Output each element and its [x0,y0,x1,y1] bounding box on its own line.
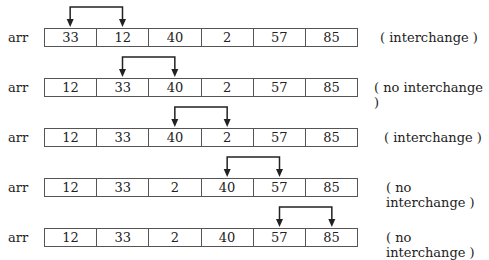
array-label: arr [8,130,28,145]
compare-arrow-icon [0,56,489,80]
array-cell: 57 [253,79,305,96]
array-cell: 12 [96,29,148,46]
array-cells: 12 33 40 2 57 85 [44,128,358,147]
array-row-5: arr 12 33 2 40 57 85 ( no interchange ) [0,206,489,256]
array-cell: 57 [253,29,305,46]
array-row-4: arr 12 33 2 40 57 85 ( no interchange ) [0,156,489,206]
array-cell: 2 [148,179,200,196]
array-row-2: arr 12 33 40 2 57 85 ( no interchange ) [0,56,489,106]
array-cell: 85 [305,229,357,246]
array-cell: 57 [253,229,305,246]
compare-arrow-icon [0,206,489,230]
array-cell: 33 [96,79,148,96]
array-cell: 40 [148,79,200,96]
array-cell: 85 [305,129,357,146]
array-cell: 40 [201,229,253,246]
array-cell: 2 [201,29,253,46]
array-cell: 57 [253,179,305,196]
array-cell: 85 [305,29,357,46]
array-cell: 12 [45,229,96,246]
array-cell: 33 [96,129,148,146]
compare-arrow-icon [0,6,489,30]
array-label: arr [8,30,28,45]
array-cells: 12 33 2 40 57 85 [44,178,358,197]
array-cell: 33 [96,229,148,246]
compare-arrow-icon [0,106,489,130]
array-cell: 2 [201,129,253,146]
array-cell: 85 [305,179,357,196]
array-row-3: arr 12 33 40 2 57 85 ( interchange ) [0,106,489,156]
array-cell: 85 [305,79,357,96]
array-cell: 12 [45,79,96,96]
array-label: arr [8,230,28,245]
array-row-1: arr 33 12 40 2 57 85 ( interchange ) [0,6,489,56]
array-cells: 12 33 40 2 57 85 [44,78,358,97]
interchange-note: ( no interchange ) [386,230,489,260]
interchange-note: ( interchange ) [384,130,482,145]
array-label: arr [8,180,28,195]
array-cell: 40 [201,179,253,196]
array-cell: 40 [148,29,200,46]
array-cell: 33 [96,179,148,196]
array-cell: 57 [253,129,305,146]
array-cell: 2 [201,79,253,96]
array-cells: 12 33 2 40 57 85 [44,228,358,247]
array-cell: 12 [45,129,96,146]
array-cell: 12 [45,179,96,196]
compare-arrow-icon [0,156,489,180]
interchange-note: ( interchange ) [380,30,478,45]
array-cell: 40 [148,129,200,146]
array-cells: 33 12 40 2 57 85 [44,28,358,47]
array-cell: 2 [148,229,200,246]
array-cell: 33 [45,29,96,46]
array-label: arr [8,80,28,95]
